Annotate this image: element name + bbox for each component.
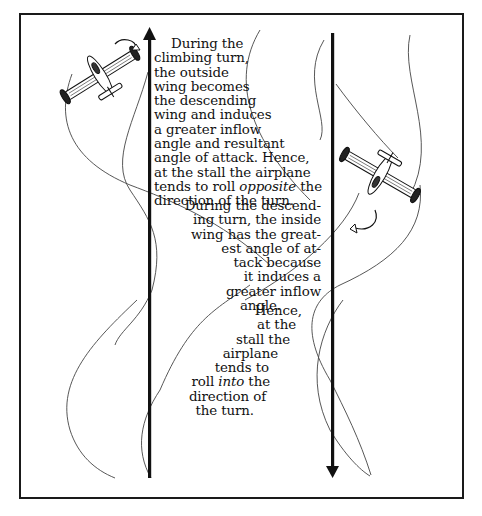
text-line: airplane: [189, 347, 302, 361]
roll-arrowhead-icon: [350, 224, 357, 233]
text-line: the descending: [154, 94, 322, 108]
descent-arrow-icon: [326, 33, 339, 478]
text-line: a greater inflow: [154, 123, 322, 137]
text-line: wing has the great-: [178, 228, 321, 242]
text-line: tack because: [178, 256, 321, 270]
text-line: at the stall the airplane: [154, 166, 322, 180]
descending-turn-text: During the descend- ing turn, the inside…: [178, 199, 321, 313]
emphasis-opposite: opposite: [239, 179, 296, 194]
text-line: angle and resultant: [154, 137, 322, 151]
text-line: wing and induces: [154, 108, 322, 122]
descending-airplane-icon: [331, 130, 431, 216]
text-line: tends to roll opposite the: [154, 180, 322, 194]
text-line: During the descend-: [178, 199, 321, 213]
emphasis-into: into: [218, 374, 244, 389]
text-line: at the: [189, 318, 302, 332]
text-line: ing turn, the inside: [178, 213, 321, 227]
text-line: est angle of at-: [178, 242, 321, 256]
text-line: direction of: [189, 390, 302, 404]
text-line: During the: [154, 37, 322, 51]
text-line: wing becomes: [154, 80, 322, 94]
text-line: the outside: [154, 66, 322, 80]
text-line: roll into the: [189, 375, 302, 389]
text-line: it induces a: [178, 270, 321, 284]
roll-arrow-icon: [355, 210, 376, 229]
text-line: the turn.: [189, 404, 302, 418]
climbing-turn-text: During the climbing turn, the outside wi…: [154, 37, 322, 209]
text-line: climbing turn,: [154, 51, 322, 65]
text-line: tends to: [189, 361, 302, 375]
text-line: Hence,: [189, 304, 302, 318]
text-line: greater inflow: [178, 285, 321, 299]
text-line: stall the: [189, 333, 302, 347]
descending-conclusion-text: Hence, at the stall the airplane tends t…: [189, 304, 302, 418]
text-line: angle of attack. Hence,: [154, 151, 322, 165]
